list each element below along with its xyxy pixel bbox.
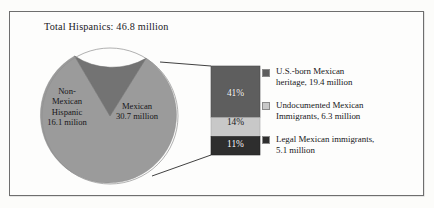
legend-swatch-icon — [262, 102, 270, 110]
legend-label-line-2: 5.1 million — [276, 145, 315, 155]
pie-label-line-3: Hispanic — [36, 107, 98, 117]
legend-item-us-born-mexican-heritage: U.S.-born Mexican heritage, 19.4 million — [262, 66, 422, 88]
legend-item-undocumented-mexican-immigrants: Undocumented Mexican Immigrants, 6.3 mil… — [262, 100, 422, 122]
legend-item-legal-mexican-immigrants: Legal Mexican immigrants, 5.1 million — [262, 134, 422, 156]
pie-label-non-mexican-hispanic: Non- Mexican Hispanic 16.1 milion — [36, 86, 98, 128]
bar-percent-label-undocumented: 14% — [211, 117, 260, 127]
pie-label-line-2: Mexican — [36, 96, 98, 106]
legend-item-label: U.S.-born Mexican heritage, 19.4 million — [276, 66, 352, 88]
legend-label-line-1: U.S.-born Mexican — [276, 66, 344, 76]
figure-container: Total Hispanics: 46.8 million Non- Mexic… — [0, 0, 434, 208]
legend-label-line-1: Legal Mexican immigrants, — [276, 134, 374, 144]
pie-label-line-1: Mexican — [101, 101, 173, 111]
pie-label-line-2: 30.7 million — [101, 111, 173, 121]
bar-percent-label-us-born: 41% — [211, 88, 260, 98]
pie-label-line-1: Non- — [36, 86, 98, 96]
legend-label-line-2: heritage, 19.4 million — [276, 77, 352, 87]
legend-swatch-icon — [262, 69, 270, 77]
pie-label-mexican: Mexican 30.7 million — [101, 101, 173, 122]
leader-line-top — [160, 62, 211, 66]
legend-label-line-2: Immigrants, 6.3 million — [276, 111, 360, 121]
chart-legend: U.S.-born Mexican heritage, 19.4 million… — [262, 66, 422, 168]
legend-item-label: Legal Mexican immigrants, 5.1 million — [276, 134, 374, 156]
bar-percent-label-legal: 11% — [211, 139, 260, 149]
legend-swatch-icon — [262, 136, 270, 144]
pie-label-line-4: 16.1 milion — [36, 117, 98, 127]
legend-item-label: Undocumented Mexican Immigrants, 6.3 mil… — [276, 100, 364, 122]
legend-label-line-1: Undocumented Mexican — [276, 100, 364, 110]
